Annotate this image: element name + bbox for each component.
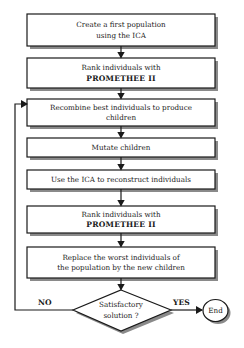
decision-text-line-2: solution ? — [103, 311, 138, 320]
end-terminal: End — [203, 300, 231, 325]
process-box-replace: Replace the worst individuals ofthe popu… — [27, 247, 218, 281]
box-text-line: Create a first population — [76, 20, 166, 29]
process-box-rank-2: Rank individuals withPROMETHEE II — [27, 206, 218, 236]
no-label: NO — [38, 298, 52, 307]
decision-diamond: Satisfactory solution ? — [73, 290, 174, 334]
process-box-rank-1: Rank individuals withPROMETHEE II — [27, 58, 218, 91]
box-text-line: using the ICA — [96, 31, 147, 40]
decision-text-line-1: Satisfactory — [99, 300, 144, 309]
box-text-line: PROMETHEE II — [86, 220, 156, 229]
box-text-line: Mutate children — [92, 143, 151, 152]
process-box-reconstruct: Use the ICA to reconstruct individuals — [27, 170, 218, 192]
box-text-line: Use the ICA to reconstruct individuals — [51, 175, 191, 184]
box-text-line: Replace the worst individuals of — [62, 253, 181, 262]
box-text-line: Rank individuals with — [81, 63, 160, 72]
process-box-mutate: Mutate children — [27, 138, 218, 160]
box-text-line: the population by the new children — [57, 263, 185, 272]
flowchart: Create a first populationusing the ICARa… — [0, 0, 244, 348]
end-label: End — [208, 306, 223, 315]
box-text-line: PROMETHEE II — [86, 74, 156, 83]
process-box-create-population: Create a first populationusing the ICA — [27, 14, 218, 49]
process-box-recombine: Recombine best individuals to producechi… — [27, 99, 218, 129]
yes-label: YES — [172, 298, 190, 307]
box-text-line: Recombine best individuals to produce — [50, 103, 192, 112]
box-text-line: children — [106, 113, 137, 122]
box-text-line: Rank individuals with — [81, 210, 160, 219]
